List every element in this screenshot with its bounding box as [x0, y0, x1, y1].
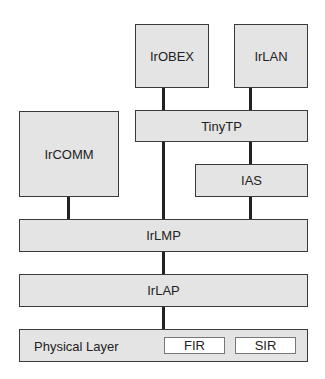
connector-irlap-physical [162, 307, 165, 329]
irobex-box: IrOBEX [135, 24, 209, 88]
irlan-label: IrLAN [254, 49, 287, 64]
irlmp-box: IrLMP [19, 219, 308, 252]
connector-irlan-tinytp [249, 88, 252, 110]
tinytp-box: TinyTP [135, 110, 308, 142]
irobex-label: IrOBEX [150, 49, 194, 64]
physical-layer-box: Physical Layer FIR SIR [19, 329, 308, 362]
physical-layer-label: Physical Layer [34, 338, 119, 353]
connector-tinytp-ias [249, 142, 252, 164]
connector-irobex-tinytp [162, 88, 165, 110]
fir-box: FIR [164, 337, 225, 354]
ias-box: IAS [195, 164, 308, 197]
fir-label: FIR [184, 338, 205, 353]
connector-ircomm-irlmp [67, 197, 70, 219]
connector-tinytp-irlmp [162, 142, 165, 219]
tinytp-label: TinyTP [201, 119, 242, 134]
irlap-box: IrLAP [19, 274, 308, 307]
ircomm-box: IrCOMM [19, 111, 119, 197]
connector-irlmp-irlap [162, 252, 165, 274]
irlan-box: IrLAN [234, 24, 308, 88]
ias-label: IAS [241, 173, 262, 188]
sir-label: SIR [255, 338, 277, 353]
ircomm-label: IrCOMM [44, 147, 93, 162]
connector-ias-irlmp [249, 197, 252, 219]
sir-box: SIR [235, 337, 296, 354]
irlmp-label: IrLMP [146, 228, 181, 243]
irlap-label: IrLAP [147, 283, 180, 298]
